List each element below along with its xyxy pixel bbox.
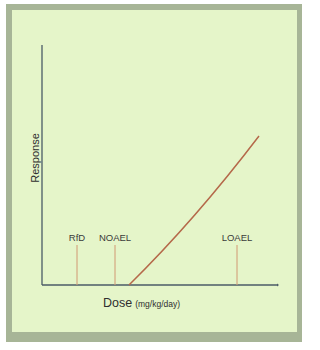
x-axis-title: Dose [103,296,132,310]
rfd-label: RfD [69,232,85,243]
loael-label: LOAEL [222,232,253,243]
x-axis-label: Dose(mg/kg/day) [103,296,180,310]
y-axis-label: Response [29,133,41,183]
x-axis-unit: (mg/kg/day) [135,299,180,309]
noael-label: NOAEL [99,232,131,243]
x-axis-arrow-icon [277,284,279,287]
dose-response-curve [129,136,259,285]
